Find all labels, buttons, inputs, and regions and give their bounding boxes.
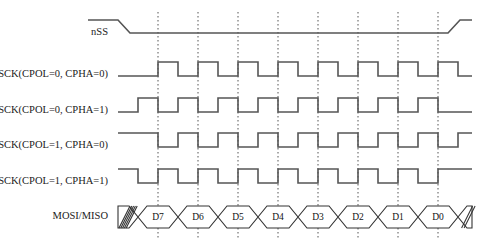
waveform-sck-cpol0-cpha1	[118, 98, 472, 112]
gridlines-group	[158, 12, 438, 238]
data-bit-label-d4: D4	[272, 212, 284, 222]
signal-label-nss: nSS	[91, 26, 108, 37]
signal-label-sck-cpol0-cpha0: SCK(CPOL=0, CPHA=0)	[0, 68, 108, 80]
data-waveform-group: D7D6D5D4D3D2D1D0	[118, 206, 475, 228]
waveform-sck-cpol1-cpha0	[118, 133, 472, 147]
signal-label-sck-cpol1-cpha1: SCK(CPOL=1, CPHA=1)	[0, 175, 108, 187]
signal-label-mosi-miso: MOSI/MISO	[53, 210, 109, 221]
data-bit-label-d3: D3	[312, 212, 324, 222]
clock-waveforms-group	[88, 20, 472, 183]
data-bit-label-d1: D1	[392, 212, 404, 222]
signal-labels-group: nSSSCK(CPOL=0, CPHA=0)SCK(CPOL=0, CPHA=1…	[0, 26, 108, 222]
data-bit-label-d6: D6	[192, 212, 204, 222]
data-bit-label-d7: D7	[152, 212, 164, 222]
waveform-sck-cpol1-cpha1	[118, 169, 472, 183]
spi-timing-diagram: nSSSCK(CPOL=0, CPHA=0)SCK(CPOL=0, CPHA=1…	[0, 0, 480, 248]
data-bit-label-d0: D0	[432, 212, 444, 222]
signal-label-sck-cpol1-cpha0: SCK(CPOL=1, CPHA=0)	[0, 139, 108, 151]
timing-diagram-canvas: nSSSCK(CPOL=0, CPHA=0)SCK(CPOL=0, CPHA=1…	[0, 0, 480, 248]
waveform-nss	[88, 20, 472, 33]
data-bit-label-d5: D5	[232, 212, 244, 222]
waveform-sck-cpol0-cpha0	[118, 62, 472, 76]
signal-label-sck-cpol0-cpha1: SCK(CPOL=0, CPHA=1)	[0, 104, 108, 116]
data-bit-label-d2: D2	[352, 212, 364, 222]
